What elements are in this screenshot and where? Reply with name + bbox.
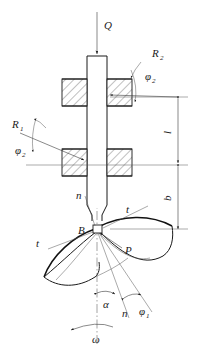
phi1-subscript: 1 bbox=[146, 312, 150, 320]
dimension-b-label: b bbox=[161, 195, 173, 201]
normal-lower-label: n bbox=[122, 307, 128, 319]
radius-r1-subscript: 1 bbox=[20, 125, 24, 133]
phi2-upper-subscript: 2 bbox=[152, 77, 156, 85]
radius-r1-label: R bbox=[11, 118, 19, 130]
impeller-hub bbox=[93, 225, 102, 233]
radius-r2-subscript: 2 bbox=[160, 54, 164, 62]
phi2-lower-subscript: 2 bbox=[22, 151, 26, 159]
alpha-label: α bbox=[103, 298, 109, 310]
force-p-label: P bbox=[124, 244, 132, 256]
figure-canvas: Q bbox=[0, 0, 198, 351]
dimension-l-label: l bbox=[161, 131, 173, 134]
phi2-upper-label: φ bbox=[145, 70, 151, 82]
axial-load-label: Q bbox=[104, 19, 112, 31]
engineering-diagram: Q bbox=[0, 0, 198, 351]
shaft bbox=[87, 56, 107, 221]
omega-label: ω bbox=[92, 333, 100, 345]
point-b-label: B bbox=[78, 224, 85, 236]
phi1-label: φ bbox=[139, 305, 145, 317]
normal-upper-label: n bbox=[76, 189, 82, 201]
phi2-lower-label: φ bbox=[15, 144, 21, 156]
radius-r2-label: R bbox=[151, 47, 159, 59]
